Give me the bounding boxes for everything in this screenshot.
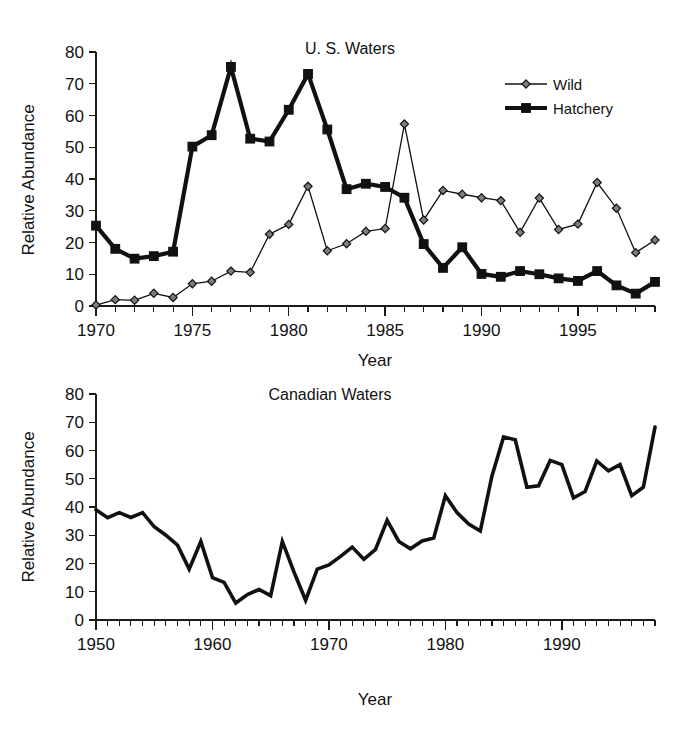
data-point-marker: [632, 249, 640, 257]
canadian-waters-x-axis-title: Year: [358, 690, 393, 709]
data-point-marker: [631, 289, 640, 298]
data-point-marker: [188, 280, 196, 288]
data-point-marker: [574, 220, 582, 228]
us-waters-legend: WildHatchery: [505, 76, 614, 117]
data-point-marker: [92, 301, 100, 309]
canadian-waters-y-axis-title: Relative Abundance: [19, 431, 38, 582]
y-tick-label: 10: [65, 265, 84, 284]
data-point-marker: [227, 267, 235, 275]
data-point-marker: [169, 293, 177, 301]
data-point-marker: [555, 225, 563, 233]
data-point-marker: [111, 245, 120, 254]
data-point-marker: [516, 267, 525, 276]
data-point-marker: [323, 125, 332, 134]
data-point-marker: [458, 190, 466, 198]
data-point-marker: [342, 185, 351, 194]
data-point-marker: [651, 236, 659, 244]
data-point-marker: [535, 270, 544, 279]
y-tick-label: 50: [65, 138, 84, 157]
data-point-marker: [130, 296, 138, 304]
legend-marker-wild: [522, 80, 530, 88]
data-point-marker: [381, 183, 390, 192]
y-tick-label: 80: [65, 385, 84, 404]
data-point-marker: [111, 296, 119, 304]
x-tick-label: 1990: [463, 321, 501, 340]
data-point-marker: [496, 272, 505, 281]
y-tick-label: 40: [65, 498, 84, 517]
y-tick-label: 70: [65, 413, 84, 432]
x-tick-label: 1950: [77, 635, 115, 654]
figure-root: 0102030405060708019701975198019851990199…: [0, 0, 685, 736]
x-tick-label: 1980: [426, 635, 464, 654]
data-point-marker: [535, 194, 543, 202]
legend-marker-hatchery: [522, 104, 531, 113]
legend-label-wild: Wild: [553, 76, 582, 93]
data-point-marker: [651, 278, 660, 287]
y-tick-label: 60: [65, 442, 84, 461]
data-point-marker: [150, 252, 159, 261]
data-point-marker: [265, 137, 274, 146]
data-point-marker: [362, 179, 371, 188]
x-tick-label: 1995: [559, 321, 597, 340]
data-point-marker: [574, 277, 583, 286]
legend-label-hatchery: Hatchery: [553, 100, 614, 117]
data-point-marker: [593, 267, 602, 276]
data-point-marker: [362, 227, 370, 235]
data-point-marker: [420, 216, 428, 224]
data-point-marker: [130, 254, 139, 263]
data-point-marker: [477, 194, 485, 202]
us-waters-panel-title: U. S. Waters: [305, 40, 395, 57]
data-point-marker: [458, 243, 467, 252]
y-tick-label: 20: [65, 234, 84, 253]
data-point-marker: [554, 274, 563, 283]
y-tick-label: 30: [65, 526, 84, 545]
us-waters-x-axis-title: Year: [358, 351, 393, 368]
y-tick-label: 0: [75, 611, 84, 630]
x-tick-label: 1980: [270, 321, 308, 340]
data-point-marker: [188, 142, 197, 151]
data-point-marker: [246, 268, 254, 276]
data-point-marker: [400, 193, 409, 202]
data-point-marker: [612, 281, 621, 290]
y-tick-label: 10: [65, 583, 84, 602]
data-point-marker: [227, 63, 236, 72]
y-tick-label: 50: [65, 470, 84, 489]
data-point-marker: [342, 240, 350, 248]
x-tick-label: 1970: [310, 635, 348, 654]
x-tick-label: 1985: [366, 321, 404, 340]
data-point-marker: [246, 134, 255, 143]
x-tick-label: 1990: [543, 635, 581, 654]
data-point-marker: [207, 131, 216, 140]
x-tick-label: 1960: [194, 635, 232, 654]
x-tick-label: 1970: [77, 321, 115, 340]
y-tick-label: 0: [75, 297, 84, 316]
chart-panel-canadian-waters: 0102030405060708019501960197019801990 Ca…: [0, 368, 685, 736]
data-point-marker: [304, 182, 312, 190]
y-tick-label: 70: [65, 75, 84, 94]
us-waters-svg: 0102030405060708019701975198019851990199…: [0, 0, 685, 368]
y-tick-label: 20: [65, 555, 84, 574]
data-point-marker: [265, 230, 273, 238]
canadian-waters-panel-title: Canadian Waters: [268, 386, 391, 403]
data-point-marker: [516, 228, 524, 236]
data-point-marker: [439, 186, 447, 194]
data-point-marker: [169, 247, 178, 256]
data-point-marker: [304, 70, 313, 79]
data-point-marker: [208, 277, 216, 285]
data-point-marker: [323, 247, 331, 255]
y-tick-label: 30: [65, 202, 84, 221]
data-point-marker: [477, 270, 486, 279]
canadian-waters-svg: 0102030405060708019501960197019801990 Ca…: [0, 368, 685, 736]
data-point-marker: [497, 196, 505, 204]
data-point-marker: [92, 221, 101, 230]
chart-panel-us-waters: 0102030405060708019701975198019851990199…: [0, 0, 685, 368]
y-tick-label: 40: [65, 170, 84, 189]
data-point-marker: [419, 240, 428, 249]
data-point-marker: [439, 264, 448, 273]
data-point-marker: [150, 289, 158, 297]
data-point-marker: [285, 220, 293, 228]
y-tick-label: 60: [65, 107, 84, 126]
data-point-marker: [400, 120, 408, 128]
x-tick-label: 1975: [173, 321, 211, 340]
data-point-marker: [284, 105, 293, 114]
